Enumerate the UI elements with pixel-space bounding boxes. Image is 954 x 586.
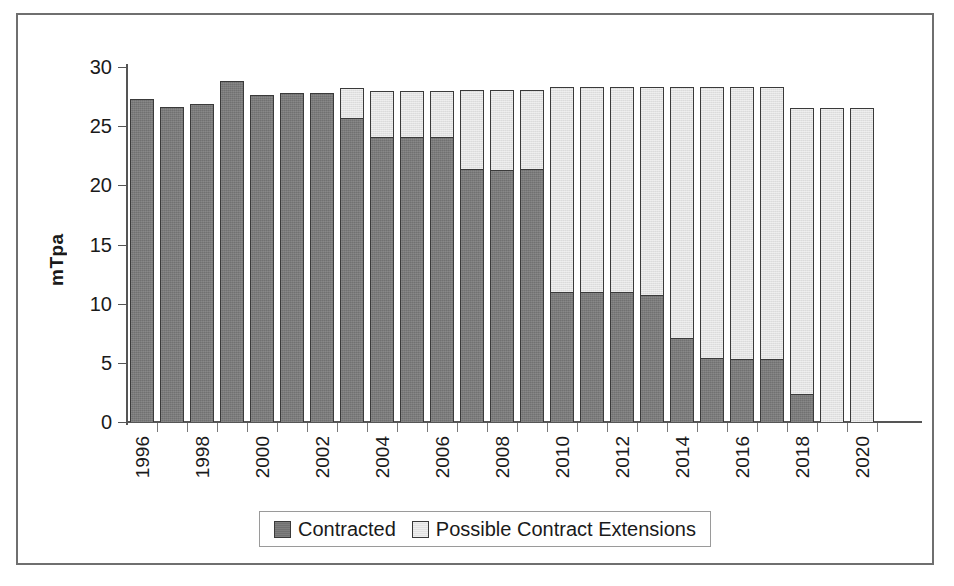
bar-segment-possible-contract-extensions[interactable] [850,108,874,422]
y-tick-mark [118,422,127,423]
bar-segment-possible-contract-extensions[interactable] [370,91,394,137]
legend-item-contracted[interactable]: Contracted [274,519,396,539]
y-tick-mark [118,185,127,186]
x-tick-label-2012: 2012 [612,436,634,478]
x-tick-mark [757,423,758,432]
bar-2006[interactable] [430,91,454,422]
bar-segment-contracted[interactable] [310,93,334,422]
bar-2019[interactable] [820,108,844,422]
bar-segment-contracted[interactable] [160,107,184,422]
bar-segment-possible-contract-extensions[interactable] [460,90,484,169]
bar-2013[interactable] [640,87,664,422]
bar-segment-contracted[interactable] [190,104,214,422]
bar-segment-contracted[interactable] [790,394,814,422]
bar-segment-contracted[interactable] [580,292,604,422]
x-tick-mark [337,423,338,432]
bar-2007[interactable] [460,90,484,423]
x-tick-mark [457,423,458,432]
bar-2004[interactable] [370,91,394,422]
bar-2011[interactable] [580,87,604,422]
bar-series-container [126,67,920,422]
bar-2016[interactable] [730,87,754,422]
bar-2015[interactable] [700,87,724,422]
bar-segment-possible-contract-extensions[interactable] [790,108,814,393]
bar-1997[interactable] [160,107,184,422]
x-tick-mark [817,423,818,432]
y-tick-label: 30 [52,57,112,77]
bar-segment-contracted[interactable] [340,118,364,422]
bar-segment-possible-contract-extensions[interactable] [640,87,664,295]
bar-segment-contracted[interactable] [460,169,484,422]
bar-segment-possible-contract-extensions[interactable] [520,90,544,169]
bar-2014[interactable] [670,87,694,422]
legend-label: Contracted [298,519,396,539]
bar-2000[interactable] [250,95,274,422]
bar-2010[interactable] [550,87,574,422]
legend-swatch-icon [274,521,291,538]
x-tick-mark [877,423,878,432]
legend-item-possible-contract-extensions[interactable]: Possible Contract Extensions [412,519,696,539]
bar-segment-possible-contract-extensions[interactable] [700,87,724,358]
y-tick-mark [118,67,127,68]
bar-2008[interactable] [490,90,514,423]
bar-segment-possible-contract-extensions[interactable] [580,87,604,292]
x-tick-label-2008: 2008 [492,436,514,478]
bar-segment-possible-contract-extensions[interactable] [610,87,634,292]
bar-2005[interactable] [400,91,424,422]
bar-segment-possible-contract-extensions[interactable] [400,91,424,137]
x-tick-mark [247,423,248,432]
legend-label: Possible Contract Extensions [436,519,696,539]
x-tick-label-2006: 2006 [432,436,454,478]
bar-segment-contracted[interactable] [250,95,274,422]
bar-segment-possible-contract-extensions[interactable] [550,87,574,292]
x-tick-label-2016: 2016 [732,436,754,478]
bar-segment-possible-contract-extensions[interactable] [820,108,844,422]
bar-segment-contracted[interactable] [520,169,544,422]
bar-segment-contracted[interactable] [280,93,304,422]
bar-segment-possible-contract-extensions[interactable] [430,91,454,137]
chart-legend: ContractedPossible Contract Extensions [259,511,711,547]
bar-segment-possible-contract-extensions[interactable] [340,88,364,118]
bar-segment-contracted[interactable] [760,359,784,422]
x-tick-mark [727,423,728,432]
bar-segment-contracted[interactable] [550,292,574,422]
x-tick-label-1996: 1996 [132,436,154,478]
x-tick-mark [427,423,428,432]
bar-2009[interactable] [520,90,544,423]
bar-segment-contracted[interactable] [700,358,724,422]
bar-segment-contracted[interactable] [610,292,634,422]
bar-2018[interactable] [790,108,814,422]
x-tick-label-2000: 2000 [252,436,274,478]
bar-2001[interactable] [280,93,304,422]
bar-segment-possible-contract-extensions[interactable] [760,87,784,359]
x-tick-mark [847,423,848,432]
x-tick-mark [187,423,188,432]
bar-segment-possible-contract-extensions[interactable] [730,87,754,359]
bar-segment-contracted[interactable] [640,295,664,422]
bar-1996[interactable] [130,99,154,422]
bar-segment-possible-contract-extensions[interactable] [670,87,694,338]
bar-segment-contracted[interactable] [670,338,694,422]
bar-segment-contracted[interactable] [430,137,454,422]
bar-segment-contracted[interactable] [370,137,394,422]
x-tick-mark [397,423,398,432]
bar-segment-contracted[interactable] [730,359,754,422]
bar-segment-contracted[interactable] [490,170,514,422]
x-tick-mark [367,423,368,432]
x-tick-label-2020: 2020 [852,436,874,478]
x-tick-label-2010: 2010 [552,436,574,478]
bar-segment-contracted[interactable] [220,81,244,422]
bar-segment-contracted[interactable] [400,137,424,422]
bar-2003[interactable] [340,88,364,422]
bar-2012[interactable] [610,87,634,422]
x-tick-mark [667,423,668,432]
bar-1999[interactable] [220,81,244,422]
bar-1998[interactable] [190,104,214,422]
bar-2020[interactable] [850,108,874,422]
bar-2002[interactable] [310,93,334,422]
bar-2017[interactable] [760,87,784,422]
bar-segment-possible-contract-extensions[interactable] [490,90,514,170]
y-tick-label: 25 [52,116,112,136]
bar-segment-contracted[interactable] [130,99,154,422]
x-tick-mark [697,423,698,432]
